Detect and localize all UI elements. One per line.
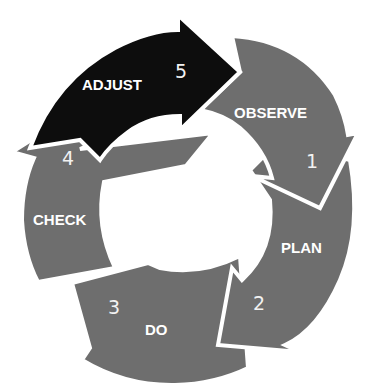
cycle-diagram: ADJUST 5 OBSERVE 1 PLAN 2 DO 3 CHECK 4 — [0, 0, 370, 388]
step-number-2: 2 — [253, 292, 265, 314]
step-number-4: 4 — [62, 147, 74, 169]
step-label-do: DO — [145, 321, 168, 338]
step-label-adjust: ADJUST — [82, 76, 142, 93]
step-number-3: 3 — [108, 296, 120, 318]
step-number-5: 5 — [175, 60, 187, 82]
step-number-1: 1 — [306, 150, 318, 172]
step-label-plan: PLAN — [281, 239, 322, 256]
step-label-observe: OBSERVE — [234, 104, 307, 121]
step-label-check: CHECK — [33, 211, 87, 228]
